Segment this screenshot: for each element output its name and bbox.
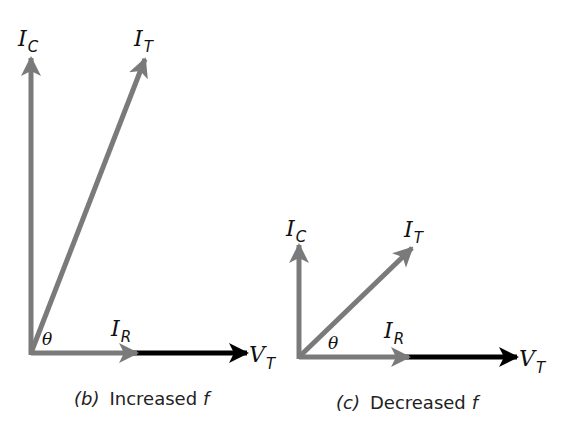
it-label-c: IT bbox=[403, 217, 425, 247]
diagram-b-increased-f: IC IT IR VT θ (b)Increasedf bbox=[17, 26, 277, 409]
it-label-b: IT bbox=[133, 26, 155, 56]
vt-label-b: VT bbox=[249, 342, 277, 373]
caption-c: (c)Decreasedf bbox=[336, 392, 481, 413]
ic-label-c: IC bbox=[285, 216, 307, 246]
vt-label-c: VT bbox=[519, 346, 547, 377]
caption-b: (b)Increasedf bbox=[74, 388, 212, 409]
ir-label-b: IR bbox=[110, 316, 131, 346]
ic-label-b: IC bbox=[17, 26, 39, 56]
phasor-diagrams: IC IT IR VT θ (b)Increasedf IC IT IR VT … bbox=[0, 0, 566, 430]
theta-label-c: θ bbox=[328, 333, 338, 353]
it-vector-b bbox=[31, 59, 145, 353]
diagram-c-decreased-f: IC IT IR VT θ (c)Decreasedf bbox=[285, 216, 547, 413]
ir-label-c: IR bbox=[383, 318, 404, 348]
theta-label-b: θ bbox=[42, 329, 52, 349]
